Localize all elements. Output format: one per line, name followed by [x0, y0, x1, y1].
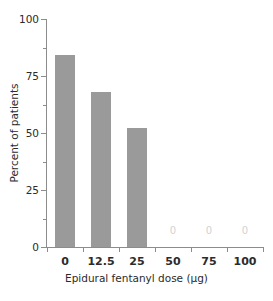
bar-12.5	[91, 92, 112, 247]
bar-0	[55, 55, 76, 247]
y-tick-75	[41, 76, 46, 77]
x-axis-title: Epidural fentanyl dose (µg)	[0, 272, 273, 284]
y-minor-tick-62.5	[43, 105, 46, 106]
y-tick-label-100: 100	[19, 13, 39, 25]
data-label-50: 0	[170, 225, 176, 236]
x-tick-6	[263, 247, 264, 252]
y-axis-line	[46, 19, 47, 247]
x-tick-label-50: 50	[165, 255, 180, 268]
x-tick-label-75: 75	[201, 255, 216, 268]
y-tick-label-50: 50	[26, 127, 39, 139]
data-label-100: 0	[242, 225, 248, 236]
x-tick-label-12.5: 12.5	[87, 255, 114, 268]
x-tick-4	[191, 247, 192, 252]
x-tick-label-0: 0	[61, 255, 69, 268]
y-tick-50	[41, 133, 46, 134]
plot-area: 0255075100 012.5255075100 000	[47, 19, 263, 247]
y-axis-title: Percent of patients	[6, 18, 22, 248]
y-tick-25	[41, 190, 46, 191]
y-tick-100	[41, 19, 46, 20]
y-minor-tick-87.5	[43, 48, 46, 49]
y-axis-title-text: Percent of patients	[8, 83, 20, 182]
y-tick-label-0: 0	[32, 241, 39, 253]
x-tick-1	[83, 247, 84, 252]
y-tick-0	[41, 247, 46, 248]
data-label-75: 0	[206, 225, 212, 236]
bar-25	[127, 128, 148, 247]
y-minor-tick-12.5	[43, 219, 46, 220]
y-minor-tick-37.5	[43, 162, 46, 163]
y-tick-label-75: 75	[26, 70, 39, 82]
x-tick-5	[227, 247, 228, 252]
y-tick-label-25: 25	[26, 184, 39, 196]
x-tick-0	[47, 247, 48, 252]
x-tick-3	[155, 247, 156, 252]
x-tick-label-100: 100	[234, 255, 257, 268]
x-tick-2	[119, 247, 120, 252]
x-tick-label-25: 25	[129, 255, 144, 268]
bar-chart-figure: Percent of patients 0255075100 012.52550…	[0, 0, 273, 301]
